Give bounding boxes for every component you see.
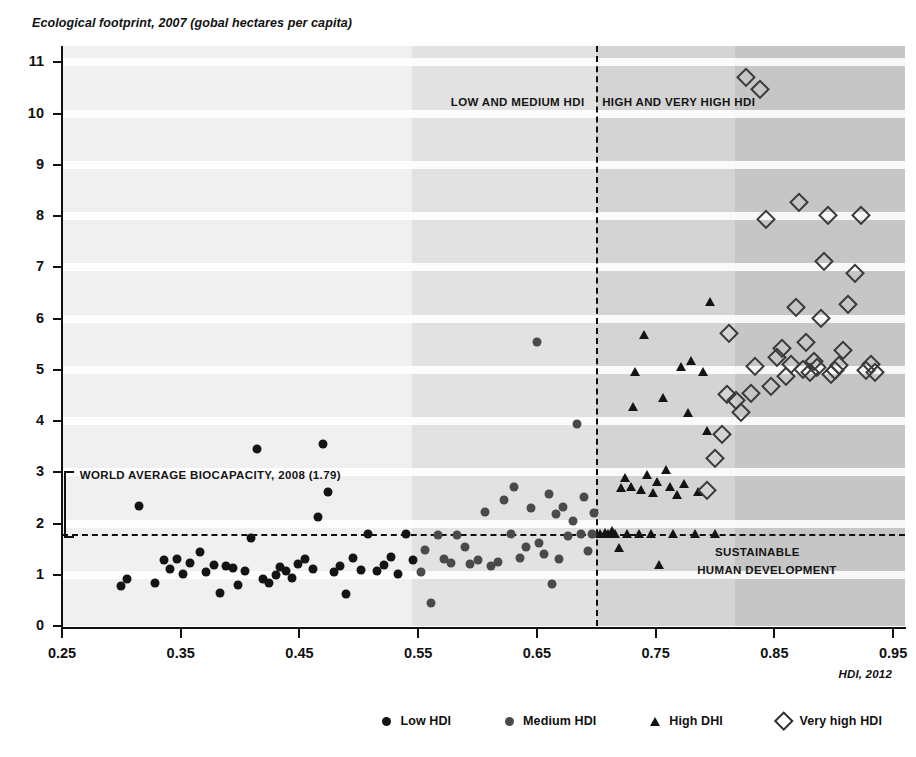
x-tick-label-0.55: 0.55: [390, 645, 446, 661]
y-tick-label-0: 0: [18, 617, 44, 633]
x-tick-0.85: [773, 629, 775, 638]
x-tick-label-0.65: 0.65: [509, 645, 565, 661]
y-tick-6: [53, 318, 62, 320]
data-point-low: [240, 566, 249, 575]
y-tick-5: [53, 369, 62, 371]
data-point-medium: [544, 489, 553, 498]
data-point-low: [215, 589, 224, 598]
y-tick-3: [53, 471, 62, 473]
data-point-low: [195, 547, 204, 556]
data-point-low: [288, 574, 297, 583]
data-point-medium: [522, 543, 531, 552]
data-point-high: [658, 393, 668, 402]
data-point-low: [348, 554, 357, 563]
x-tick-label-0.45: 0.45: [271, 645, 327, 661]
x-tick-label-0.95: 0.95: [865, 645, 916, 661]
data-point-low: [252, 445, 261, 454]
data-point-high: [690, 529, 700, 538]
legend-label: Medium HDI: [523, 714, 596, 728]
data-point-low: [264, 579, 273, 588]
grid-band-4: [62, 417, 905, 425]
data-point-high: [626, 482, 636, 491]
x-tick-label-0.25: 0.25: [34, 645, 90, 661]
data-point-high: [683, 408, 693, 417]
legend-item-veryhigh[interactable]: Very high HDI: [777, 714, 882, 728]
data-point-medium: [548, 579, 557, 588]
data-point-high: [616, 483, 626, 492]
y-tick-9: [53, 164, 62, 166]
data-point-high: [628, 402, 638, 411]
data-point-medium: [568, 516, 577, 525]
chart-title: Ecological footprint, 2007 (gobal hectar…: [32, 16, 352, 30]
data-point-low: [233, 581, 242, 590]
legend-marker-low-icon: [382, 717, 391, 726]
grid-band-6: [62, 315, 905, 323]
data-point-medium: [453, 530, 462, 539]
data-point-low: [186, 559, 195, 568]
data-point-medium: [506, 530, 515, 539]
data-point-low: [301, 555, 310, 564]
data-point-low: [319, 440, 328, 449]
grid-band-11: [62, 58, 905, 66]
biocapacity-bracket: [64, 471, 74, 538]
x-tick-0.55: [417, 629, 419, 638]
legend-label: High DHI: [669, 714, 723, 728]
data-point-high: [710, 529, 720, 538]
y-tick-label-9: 9: [18, 156, 44, 172]
data-point-low: [308, 564, 317, 573]
legend-item-high[interactable]: High DHI: [650, 714, 723, 728]
x-tick-label-0.75: 0.75: [628, 645, 684, 661]
data-point-low: [123, 574, 132, 583]
data-point-high: [705, 297, 715, 306]
biocapacity-annotation: WORLD AVERAGE BIOCAPACITY, 2008 (1.79): [80, 469, 341, 481]
legend-label: Low HDI: [400, 714, 451, 728]
sustainable-quadrant-line2: HUMAN DEVELOPMENT: [697, 564, 836, 576]
data-point-high: [654, 560, 664, 569]
data-point-medium: [473, 556, 482, 565]
data-point-low: [166, 564, 175, 573]
data-point-high: [648, 488, 658, 497]
y-tick-11: [53, 61, 62, 63]
y-tick-label-8: 8: [18, 207, 44, 223]
data-point-high: [661, 465, 671, 474]
data-point-low: [386, 552, 395, 561]
data-point-medium: [540, 550, 549, 559]
data-point-medium: [573, 419, 582, 428]
legend-item-low[interactable]: Low HDI: [382, 714, 451, 728]
zone-medium: [596, 46, 735, 626]
x-tick-label-0.35: 0.35: [153, 645, 209, 661]
data-point-low: [364, 530, 373, 539]
data-point-medium: [516, 554, 525, 563]
data-point-high: [636, 485, 646, 494]
legend-marker-veryhigh-icon: [774, 711, 793, 730]
y-axis-line: [61, 46, 63, 628]
chart-legend: Low HDIMedium HDIHigh DHIVery high HDI: [0, 706, 916, 736]
data-point-low: [209, 560, 218, 569]
data-point-high: [698, 367, 708, 376]
data-point-high: [676, 362, 686, 371]
grid-band-9: [62, 161, 905, 169]
data-point-high: [614, 543, 624, 552]
x-tick-0.35: [180, 629, 182, 638]
grid-band-7: [62, 263, 905, 271]
data-point-medium: [555, 554, 564, 563]
data-point-low: [409, 556, 418, 565]
data-point-medium: [493, 557, 502, 566]
legend-item-medium[interactable]: Medium HDI: [505, 714, 596, 728]
data-point-high: [672, 490, 682, 499]
data-point-medium: [427, 598, 436, 607]
y-tick-label-10: 10: [18, 105, 44, 121]
plot-area: LOW AND MEDIUM HDIHIGH AND VERY HIGH HDI…: [62, 46, 905, 626]
data-point-medium: [580, 492, 589, 501]
data-point-medium: [421, 546, 430, 555]
data-point-medium: [460, 542, 469, 551]
data-point-high: [702, 426, 712, 435]
x-tick-0.45: [298, 629, 300, 638]
data-point-high: [630, 367, 640, 376]
data-point-medium: [563, 532, 572, 541]
data-point-low: [150, 579, 159, 588]
reference-line-hdi-threshold: [596, 46, 598, 626]
data-point-medium: [576, 530, 585, 539]
sustainable-quadrant-line1: SUSTAINABLE: [715, 546, 800, 558]
data-point-medium: [559, 503, 568, 512]
